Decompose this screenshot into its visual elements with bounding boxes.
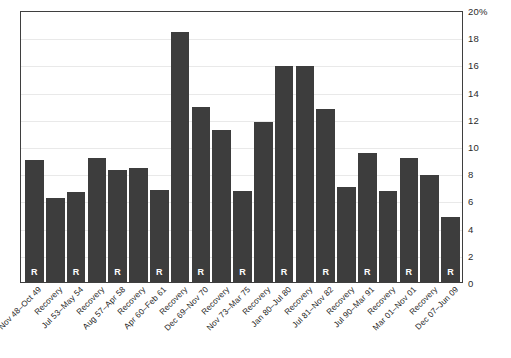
bar[interactable] [400, 158, 419, 282]
bar-slot[interactable]: R [25, 10, 44, 282]
recession-marker: R [192, 267, 211, 277]
bar[interactable] [46, 198, 65, 282]
bar[interactable] [108, 170, 127, 282]
y-axis-tick-label: 8 [468, 169, 473, 180]
bar[interactable] [88, 158, 107, 282]
y-axis-tick-label: 10 [468, 142, 479, 153]
bar[interactable] [337, 187, 356, 282]
bar[interactable] [296, 66, 315, 282]
y-axis-tick-label: 6 [468, 196, 473, 207]
bar-slot[interactable]: R [400, 10, 419, 282]
recession-marker: R [275, 267, 294, 277]
bars-layer: RRRRRRRRRRR [21, 12, 462, 282]
bar[interactable] [25, 160, 44, 282]
bar-slot[interactable] [337, 10, 356, 282]
bar[interactable] [420, 175, 439, 282]
bar[interactable] [171, 32, 190, 282]
bar[interactable] [254, 122, 273, 282]
bar-slot[interactable] [379, 10, 398, 282]
recession-marker: R [25, 267, 44, 277]
recession-marker: R [67, 267, 86, 277]
bar-slot[interactable] [254, 10, 273, 282]
y-axis-tick-label: 2 [468, 250, 473, 261]
x-axis-labels: Nov 48–Oct 49RecoveryJul 53–May 54Recove… [0, 285, 511, 358]
bar[interactable] [275, 66, 294, 282]
bar-slot[interactable]: R [67, 10, 86, 282]
bar-slot[interactable]: R [150, 10, 169, 282]
bar-slot[interactable]: R [192, 10, 211, 282]
recession-marker: R [316, 267, 335, 277]
bar-slot[interactable] [171, 10, 190, 282]
bar[interactable] [129, 168, 148, 282]
y-axis-tick-label: 18 [468, 33, 479, 44]
bar-slot[interactable] [212, 10, 231, 282]
recession-marker: R [358, 267, 377, 277]
recession-marker: R [441, 267, 460, 277]
bar-slot[interactable]: R [316, 10, 335, 282]
plot-area: RRRRRRRRRRR [20, 11, 463, 283]
bar-slot[interactable]: R [441, 10, 460, 282]
bar[interactable] [316, 109, 335, 282]
bar[interactable] [192, 107, 211, 282]
bar[interactable] [212, 130, 231, 282]
y-axis-tick-label: 20% [468, 6, 488, 17]
bar-slot[interactable]: R [358, 10, 377, 282]
bar[interactable] [358, 153, 377, 282]
y-axis-tick-label: 4 [468, 223, 473, 234]
y-axis-tick-label: 12 [468, 114, 479, 125]
recession-marker: R [150, 267, 169, 277]
bar-slot[interactable]: R [233, 10, 252, 282]
y-axis-tick-label: 14 [468, 87, 479, 98]
recession-marker: R [233, 267, 252, 277]
y-axis: 20%181614121086420 [468, 0, 511, 300]
recession-marker: R [108, 267, 127, 277]
bar-slot[interactable] [296, 10, 315, 282]
bar-slot[interactable] [88, 10, 107, 282]
bar-slot[interactable] [46, 10, 65, 282]
bar-slot[interactable]: R [108, 10, 127, 282]
bar-slot[interactable] [129, 10, 148, 282]
bar-slot[interactable]: R [275, 10, 294, 282]
bar-slot[interactable] [420, 10, 439, 282]
chart-container: RRRRRRRRRRR 20%181614121086420 Nov 48–Oc… [0, 0, 511, 358]
y-axis-tick-label: 16 [468, 60, 479, 71]
bar[interactable] [379, 191, 398, 282]
recession-marker: R [400, 267, 419, 277]
